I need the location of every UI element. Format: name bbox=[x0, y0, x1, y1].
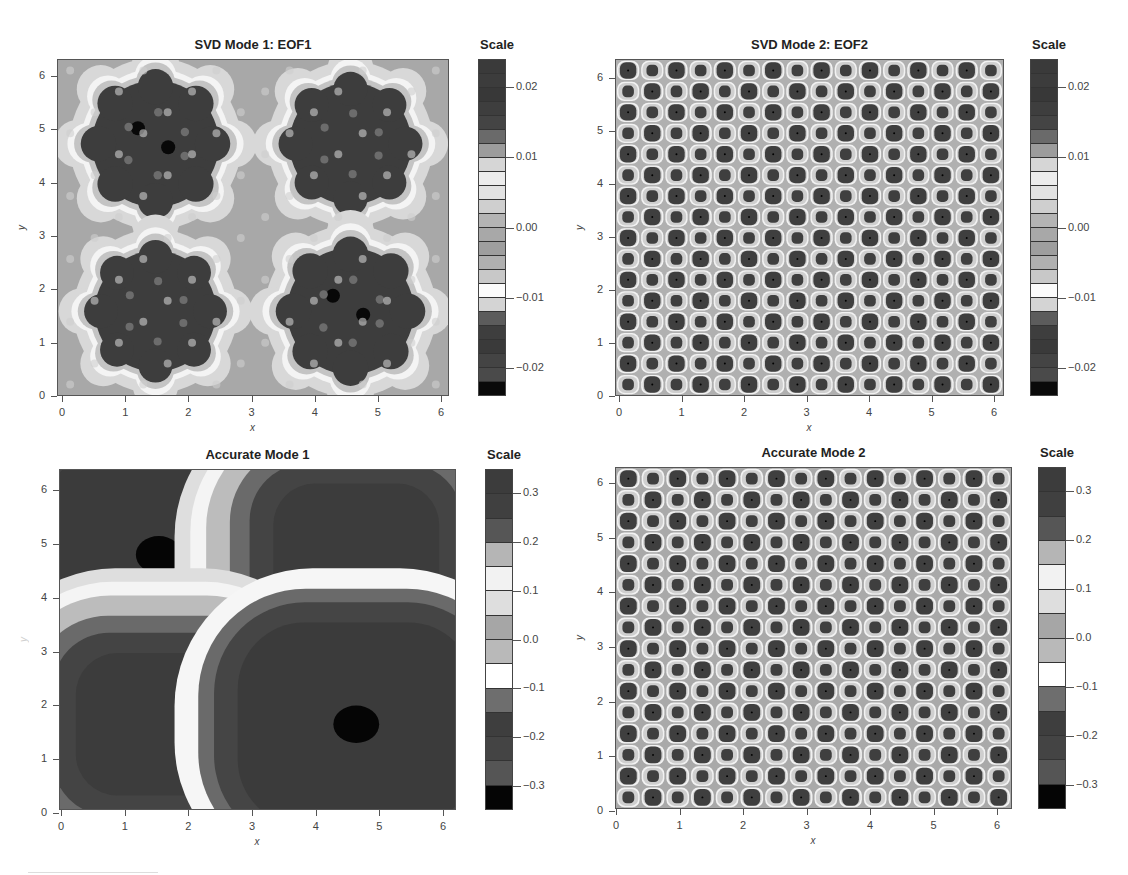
x-tick-label: 2 bbox=[741, 406, 747, 418]
colorbar-band bbox=[1031, 60, 1057, 74]
x-tick-label: 1 bbox=[122, 820, 128, 832]
plot-title: SVD Mode 2: EOF2 bbox=[615, 37, 1004, 52]
colorbar-title: Scale bbox=[1032, 37, 1066, 52]
y-axis-label: y bbox=[18, 637, 29, 642]
colorbar-band bbox=[486, 567, 512, 591]
colorbar-band bbox=[486, 689, 512, 713]
x-tick bbox=[443, 810, 444, 816]
colorbar-band bbox=[1031, 326, 1057, 340]
colorbar-band bbox=[1031, 88, 1057, 102]
colorbar-band bbox=[479, 214, 505, 228]
x-tick bbox=[252, 396, 253, 402]
colorbar-band bbox=[479, 368, 505, 382]
x-tick-label: 3 bbox=[804, 819, 810, 831]
colorbar-band bbox=[479, 88, 505, 102]
x-tick-label: 2 bbox=[740, 819, 746, 831]
colorbar-tick bbox=[1066, 491, 1074, 492]
colorbar-tick-label: 0.01 bbox=[516, 150, 537, 162]
colorbar-tick bbox=[513, 688, 521, 689]
x-tick-label: 4 bbox=[312, 406, 318, 418]
colorbar-band bbox=[486, 786, 512, 809]
colorbar-band bbox=[479, 116, 505, 130]
colorbar-tick bbox=[1066, 736, 1074, 737]
colorbar-tick-label: 0.2 bbox=[1076, 533, 1091, 545]
colorbar-band bbox=[479, 326, 505, 340]
y-tick-label: 5 bbox=[39, 122, 45, 134]
x-tick-label: 5 bbox=[931, 819, 937, 831]
x-tick-label: 0 bbox=[59, 406, 65, 418]
colorbar-band bbox=[479, 242, 505, 256]
y-tick bbox=[53, 813, 59, 814]
x-tick-label: 6 bbox=[991, 406, 997, 418]
x-tick bbox=[252, 810, 253, 816]
colorbar-band bbox=[1031, 354, 1057, 368]
colorbar-band bbox=[479, 354, 505, 368]
y-tick bbox=[609, 184, 615, 185]
x-axis-label: x bbox=[250, 422, 255, 433]
y-tick bbox=[609, 592, 615, 593]
x-tick-label: 0 bbox=[616, 406, 622, 418]
y-tick-label: 5 bbox=[597, 531, 603, 543]
colorbar-band bbox=[1031, 158, 1057, 172]
y-tick-label: 5 bbox=[41, 537, 47, 549]
colorbar-band bbox=[1039, 736, 1065, 760]
colorbar-band bbox=[486, 737, 512, 761]
heatmap-area bbox=[57, 59, 449, 396]
colorbar-band bbox=[486, 616, 512, 640]
colorbar-tick-label: −0.01 bbox=[1068, 291, 1096, 303]
y-tick bbox=[51, 183, 57, 184]
colorbar-band bbox=[479, 298, 505, 312]
x-tick-label: 5 bbox=[376, 820, 382, 832]
x-tick-label: 3 bbox=[249, 406, 255, 418]
plot-title: Accurate Mode 2 bbox=[615, 445, 1012, 460]
x-tick bbox=[316, 810, 317, 816]
colorbar-tick bbox=[1066, 540, 1074, 541]
y-tick bbox=[609, 396, 615, 397]
colorbar-band bbox=[1039, 614, 1065, 638]
x-tick-label: 2 bbox=[185, 820, 191, 832]
y-tick-label: 6 bbox=[39, 69, 45, 81]
heatmap-area bbox=[615, 59, 1004, 396]
colorbar-band bbox=[1031, 368, 1057, 382]
y-tick bbox=[51, 343, 57, 344]
colorbar-tick bbox=[513, 493, 521, 494]
x-tick bbox=[315, 396, 316, 402]
colorbar-band bbox=[1031, 102, 1057, 116]
x-tick bbox=[743, 809, 744, 815]
y-tick-label: 6 bbox=[597, 71, 603, 83]
y-tick bbox=[609, 78, 615, 79]
x-tick bbox=[997, 809, 998, 815]
x-tick bbox=[125, 810, 126, 816]
y-tick bbox=[609, 483, 615, 484]
colorbar-tick bbox=[1058, 87, 1066, 88]
y-tick-label: 4 bbox=[41, 591, 47, 603]
divider bbox=[28, 872, 158, 873]
colorbar-band bbox=[1039, 590, 1065, 614]
y-tick-label: 2 bbox=[39, 282, 45, 294]
colorbar-tick bbox=[506, 87, 514, 88]
x-tick-label: 1 bbox=[677, 819, 683, 831]
colorbar-band bbox=[1031, 200, 1057, 214]
x-tick bbox=[61, 810, 62, 816]
colorbar-tick-label: 0.3 bbox=[523, 486, 538, 498]
x-tick bbox=[744, 396, 745, 402]
colorbar-tick-label: 0.00 bbox=[516, 221, 537, 233]
colorbar-tick bbox=[513, 786, 521, 787]
colorbar-tick-label: −0.1 bbox=[1076, 680, 1098, 692]
colorbar-band bbox=[479, 256, 505, 270]
y-tick bbox=[609, 343, 615, 344]
colorbar-band bbox=[1031, 242, 1057, 256]
colorbar-tick bbox=[513, 591, 521, 592]
colorbar-tick bbox=[1066, 687, 1074, 688]
y-tick bbox=[53, 759, 59, 760]
colorbar-tick bbox=[506, 368, 514, 369]
x-tick bbox=[870, 809, 871, 815]
x-tick bbox=[62, 396, 63, 402]
y-tick bbox=[51, 236, 57, 237]
y-tick-label: 1 bbox=[41, 752, 47, 764]
colorbar-band bbox=[1031, 256, 1057, 270]
colorbar-band bbox=[1039, 760, 1065, 784]
colorbar-tick bbox=[1066, 638, 1074, 639]
colorbar bbox=[485, 469, 513, 810]
colorbar-band bbox=[479, 172, 505, 186]
